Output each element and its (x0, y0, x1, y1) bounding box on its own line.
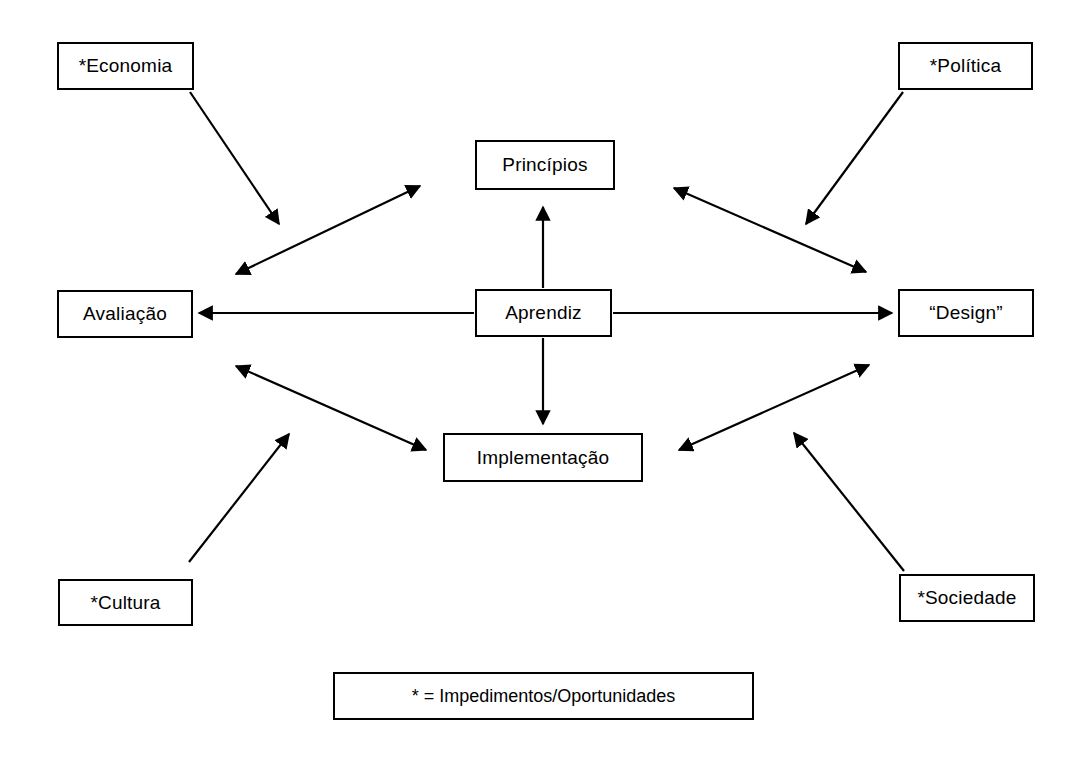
node-economia[interactable]: *Economia (57, 42, 194, 90)
node-label: *Política (930, 55, 1002, 77)
node-label: Princípios (502, 154, 587, 176)
node-label: “Design” (929, 302, 1002, 324)
edge-sociedade-to-center (794, 433, 904, 571)
diagram-canvas: *Economia*PolíticaPrincípiosAvaliaçãoApr… (0, 0, 1090, 761)
edge-economia-to-center (190, 92, 279, 224)
edge-avaliacao-principios (236, 186, 420, 274)
node-label: *Cultura (90, 592, 160, 614)
node-avaliacao[interactable]: Avaliação (57, 290, 193, 338)
node-principios[interactable]: Princípios (475, 140, 615, 190)
node-implementacao[interactable]: Implementação (443, 433, 643, 482)
node-label: *Sociedade (917, 587, 1016, 609)
node-design[interactable]: “Design” (898, 289, 1034, 337)
node-sociedade[interactable]: *Sociedade (899, 574, 1035, 622)
edge-avaliacao-implementacao (236, 366, 426, 450)
node-aprendiz[interactable]: Aprendiz (475, 289, 612, 337)
legend-box: * = Impedimentos/Oportunidades (333, 672, 754, 720)
edge-politica-to-center (806, 92, 903, 224)
edge-cultura-to-center (189, 434, 289, 562)
node-label: *Economia (79, 55, 173, 77)
node-label: Aprendiz (505, 302, 582, 324)
node-cultura[interactable]: *Cultura (58, 579, 193, 626)
legend-label: * = Impedimentos/Oportunidades (412, 686, 676, 707)
diagram-edges-layer (0, 0, 1090, 761)
edge-implementacao-design (679, 365, 869, 450)
edge-principios-design (674, 188, 866, 272)
node-label: Avaliação (83, 303, 167, 325)
node-label: Implementação (477, 447, 610, 469)
node-politica[interactable]: *Política (898, 42, 1033, 90)
